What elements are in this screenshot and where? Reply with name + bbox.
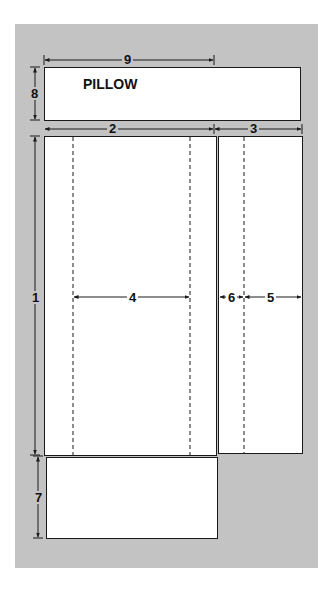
dimension-8-label: 8 [29, 87, 40, 100]
dimension-5-label: 5 [265, 291, 276, 304]
dimension-2-label: 2 [107, 122, 118, 135]
dimension-6-label: 6 [226, 291, 237, 304]
dimension-lines [0, 0, 332, 598]
dimension-3-label: 3 [248, 122, 259, 135]
dimension-9-label: 9 [122, 53, 133, 66]
dimension-7-label: 7 [33, 491, 44, 504]
dimension-4-label: 4 [127, 291, 138, 304]
dimension-1-label: 1 [30, 291, 41, 304]
